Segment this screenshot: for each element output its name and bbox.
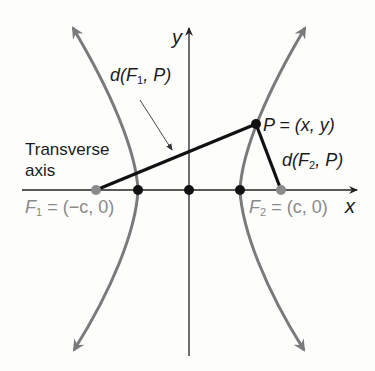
transverse-axis-label-line2: axis	[25, 162, 55, 179]
y-axis-label: y	[172, 27, 182, 47]
focus-f1	[91, 185, 101, 195]
d-f2-p-label: d(F2, P)	[282, 151, 343, 171]
left-branch-upper	[73, 28, 138, 190]
hyperbola-graphic	[0, 0, 375, 371]
focus-f2-label: F2 = (c, 0)	[249, 198, 328, 218]
hyperbola-figure: y x d(F1, P) P = (x, y) d(F2, P) Transve…	[0, 0, 375, 371]
f2-suffix: = (c, 0)	[266, 197, 328, 217]
focus-f2	[276, 185, 286, 195]
d-f2-p-prefix: d(F	[282, 150, 309, 170]
focus-f1-label: F1 = (−c, 0)	[25, 198, 114, 218]
center-origin	[184, 185, 194, 195]
transverse-axis-label-line1: Transverse	[25, 141, 109, 158]
d-f2-p-suffix: , P)	[315, 150, 343, 170]
d-f1-p-prefix: d(F	[110, 65, 137, 85]
f2-prefix: F	[249, 197, 260, 217]
vertex-left	[133, 185, 143, 195]
point-p-label: P = (x, y)	[263, 116, 335, 134]
x-axis-label: x	[345, 196, 355, 216]
f1-suffix: = (−c, 0)	[42, 197, 114, 217]
d-f1-p-suffix: , P)	[143, 65, 171, 85]
segment-f1-p	[96, 124, 256, 190]
vertex-right	[235, 185, 245, 195]
point-p	[251, 119, 261, 129]
label-pointer-arrow	[140, 100, 172, 150]
f1-prefix: F	[25, 197, 36, 217]
d-f1-p-label: d(F1, P)	[110, 66, 171, 86]
